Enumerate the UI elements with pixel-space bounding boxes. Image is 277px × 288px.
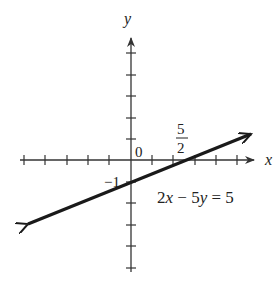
- origin-label: 0: [135, 144, 143, 160]
- graph-canvas: x y 0 5 2 −1 2x − 5y = 5: [0, 0, 277, 288]
- y-axis-label: y: [122, 10, 132, 28]
- x-axis: x: [20, 151, 272, 168]
- fraction-numerator: 5: [177, 121, 185, 137]
- y-axis: y: [122, 10, 136, 272]
- x-axis-label: x: [264, 151, 272, 168]
- x-intercept-label: 5 2: [176, 121, 188, 156]
- fraction-denominator: 2: [177, 140, 185, 156]
- equation-label: 2x − 5y = 5: [157, 188, 234, 207]
